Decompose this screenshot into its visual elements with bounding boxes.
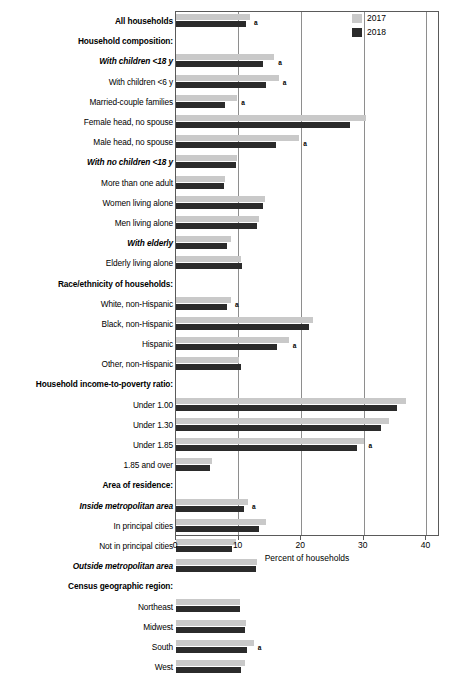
row-label: Hispanic (142, 340, 173, 349)
chart-row: Women living alone (0, 193, 457, 213)
bar-2017 (176, 216, 259, 222)
row-label: Household composition: (78, 37, 173, 46)
row-label: Not in principal cities (99, 541, 173, 550)
row-label: Under 1.85 (133, 441, 173, 450)
bar-2018 (176, 606, 240, 612)
significance-flag: a (278, 60, 282, 67)
row-bars (176, 617, 439, 637)
row-label: Race/ethnicity of households: (58, 279, 173, 288)
legend-swatch-2018 (352, 28, 362, 37)
row-bars (176, 657, 439, 677)
row-label: With children <18 y (99, 57, 173, 66)
x-tick-label: 0 (173, 541, 178, 550)
row-label: More than one adult (101, 178, 173, 187)
row-label: Black, non-Hispanic (102, 319, 173, 328)
legend-label-2017: 2017 (367, 14, 386, 23)
legend: 2017 2018 (352, 14, 414, 42)
chart-row: Hispanica (0, 334, 457, 354)
bar-2017 (176, 75, 279, 81)
row-bars (176, 273, 439, 293)
significance-flag: a (254, 20, 258, 27)
significance-flag: a (303, 141, 307, 148)
bar-2018 (176, 465, 210, 471)
chart-row: Race/ethnicity of households: (0, 273, 457, 293)
bar-2018 (176, 627, 245, 633)
row-bars: a (176, 435, 439, 455)
row-label: 1.85 and over (124, 461, 173, 470)
significance-flag: a (283, 80, 287, 87)
bar-2017 (176, 196, 265, 202)
bar-2018 (176, 21, 246, 27)
row-bars: a (176, 51, 439, 71)
row-bars: a (176, 496, 439, 516)
row-bars (176, 193, 439, 213)
x-axis: 010203040 Percent of households (175, 536, 439, 576)
row-label: Census geographic region: (68, 582, 173, 591)
row-label: Women living alone (103, 198, 173, 207)
bar-2017 (176, 620, 246, 626)
row-bars (176, 374, 439, 394)
row-label: Elderly living alone (106, 259, 173, 268)
x-tick-label: 30 (358, 541, 367, 550)
significance-flag: a (252, 504, 256, 511)
bar-2018 (176, 61, 263, 67)
row-label: Northeast (138, 602, 173, 611)
bar-2018 (176, 324, 309, 330)
row-bars (176, 576, 439, 596)
row-bars (176, 173, 439, 193)
row-label: West (155, 663, 173, 672)
bar-2017 (176, 438, 364, 444)
row-label: Area of residence: (102, 481, 173, 490)
chart-row: Under 1.85a (0, 435, 457, 455)
row-bars (176, 253, 439, 273)
bar-2017 (176, 398, 406, 404)
bar-2018 (176, 223, 257, 229)
row-label: With elderly (127, 239, 173, 248)
chart-row: Area of residence: (0, 475, 457, 495)
row-bars: a (176, 72, 439, 92)
significance-flag: a (368, 443, 372, 450)
chart-row: With elderly (0, 233, 457, 253)
chart-row: Under 1.30 (0, 415, 457, 435)
chart-row: Male head, no spousea (0, 132, 457, 152)
bar-2017 (176, 155, 237, 161)
bar-2018 (176, 162, 236, 168)
bar-2017 (176, 236, 231, 242)
bar-2017 (176, 14, 250, 20)
chart-rows: All householdsaHousehold composition:Wit… (0, 11, 457, 536)
row-bars (176, 233, 439, 253)
row-label: Under 1.30 (133, 420, 173, 429)
row-bars (176, 395, 439, 415)
bar-2018 (176, 667, 241, 673)
bar-2017 (176, 317, 313, 323)
chart-row: More than one adult (0, 173, 457, 193)
chart-row: Black, non-Hispanic (0, 314, 457, 334)
bar-2017 (176, 95, 237, 101)
significance-flag: a (241, 100, 245, 107)
bar-2017 (176, 135, 299, 141)
bar-2018 (176, 445, 357, 451)
row-bars (176, 354, 439, 374)
row-label: Married-couple families (90, 97, 173, 106)
bar-2018 (176, 263, 242, 269)
bar-2017 (176, 337, 289, 343)
chart-row: Census geographic region: (0, 576, 457, 596)
chart-row: Inside metropolitan areaa (0, 496, 457, 516)
row-label: White, non-Hispanic (101, 299, 173, 308)
bar-2017 (176, 660, 245, 666)
legend-item-2018: 2018 (352, 28, 414, 37)
bar-2017 (176, 256, 241, 262)
row-label: Midwest (143, 622, 173, 631)
chart-row: West (0, 657, 457, 677)
row-bars (176, 152, 439, 172)
bar-2018 (176, 647, 247, 653)
row-label: In principal cities (114, 521, 173, 530)
chart-row: Southa (0, 637, 457, 657)
chart-row: Other, non-Hispanic (0, 354, 457, 374)
bar-2017 (176, 54, 274, 60)
bar-2018 (176, 122, 350, 128)
row-label: All households (115, 17, 173, 26)
row-bars (176, 516, 439, 536)
row-label: Outside metropolitan area (73, 562, 173, 571)
bar-2018 (176, 364, 241, 370)
